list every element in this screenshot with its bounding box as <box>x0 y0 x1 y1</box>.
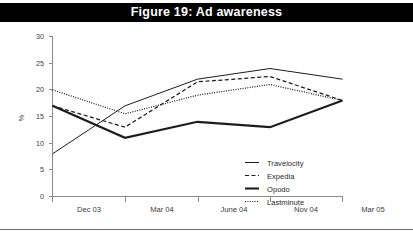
y-tick-label-10: 10 <box>36 139 44 148</box>
series-line-travelocity <box>53 69 343 154</box>
legend-label-expedia: Expedia <box>267 172 295 181</box>
legend-entry-travelocity[interactable]: Travelocity <box>245 159 304 168</box>
y-axis-ticks <box>49 37 53 197</box>
figure-title-bar: Figure 19: Ad awareness <box>0 3 413 22</box>
y-tick-label-0: 0 <box>40 192 44 201</box>
y-tick-label-20: 20 <box>36 85 44 94</box>
legend-label-travelocity: Travelocity <box>267 159 304 168</box>
x-tick-label-mar05: Mar 05 <box>361 205 385 214</box>
x-tick-label-june04: June 04 <box>220 205 247 214</box>
chart-plot-area: 30 25 20 15 10 5 0 % Dec 03 Mar 04 June … <box>0 22 413 227</box>
data-series-layer <box>53 69 343 154</box>
y-axis-label: % <box>17 114 26 121</box>
y-tick-label-25: 25 <box>36 59 44 68</box>
y-tick-label-30: 30 <box>36 32 44 41</box>
legend-label-opodo: Opodo <box>267 185 290 194</box>
legend-label-lastminute: Lastminute <box>267 198 304 207</box>
series-line-expedia <box>53 77 343 128</box>
legend-entry-opodo[interactable]: Opodo <box>245 185 290 194</box>
series-line-lastminute <box>53 85 343 114</box>
x-tick-label-mar04: Mar 04 <box>150 205 174 214</box>
x-tick-label-dec03: Dec 03 <box>77 205 101 214</box>
legend-entry-lastminute[interactable]: Lastminute <box>245 198 304 207</box>
figure-container: Figure 19: Ad awareness 30 25 20 15 10 5… <box>0 0 413 237</box>
y-tick-label-15: 15 <box>36 112 44 121</box>
y-tick-label-5: 5 <box>40 165 44 174</box>
legend-entry-expedia[interactable]: Expedia <box>245 172 295 181</box>
series-line-opodo <box>53 101 343 138</box>
chart-legend: Travelocity Expedia Opodo Lastminute <box>245 159 304 207</box>
figure-bottom-rule <box>0 229 413 230</box>
